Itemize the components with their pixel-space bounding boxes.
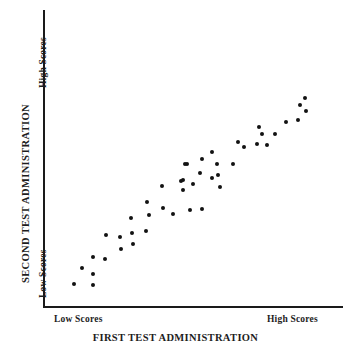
data-point — [200, 207, 204, 211]
data-point — [265, 143, 269, 147]
data-point — [284, 120, 288, 124]
data-point — [260, 132, 264, 136]
data-point — [181, 188, 185, 192]
data-point — [144, 229, 148, 233]
data-point — [303, 96, 307, 100]
y-axis-title: SECOND TEST ADMINISTRATION — [20, 104, 31, 283]
data-point — [216, 173, 220, 177]
data-point — [210, 150, 214, 154]
data-point — [171, 212, 175, 216]
data-point — [210, 176, 214, 180]
data-point — [160, 184, 164, 188]
data-point — [129, 216, 133, 220]
data-point — [273, 132, 277, 136]
data-point — [191, 182, 195, 186]
data-point — [145, 200, 149, 204]
data-point — [161, 206, 165, 210]
y-axis-high-label: High Scores — [38, 37, 48, 88]
scatterplot-figure: SECOND TEST ADMINISTRATION High Scores L… — [0, 0, 351, 350]
data-point — [91, 255, 95, 259]
data-point — [188, 208, 192, 212]
x-axis-high-label: High Scores — [267, 314, 318, 324]
data-point — [242, 145, 246, 149]
data-point — [72, 282, 76, 286]
data-point — [131, 242, 135, 246]
x-axis-title: FIRST TEST ADMINISTRATION — [0, 332, 351, 343]
data-point — [304, 109, 308, 113]
y-axis-low-label: Low Scores — [38, 249, 48, 298]
data-point — [257, 125, 261, 129]
data-point — [104, 233, 108, 237]
data-point — [218, 185, 222, 189]
data-point — [80, 266, 84, 270]
data-point — [119, 247, 123, 251]
data-point — [91, 272, 95, 276]
data-point — [215, 162, 219, 166]
plot-area — [0, 0, 351, 350]
x-axis-low-label: Low Scores — [54, 314, 103, 324]
data-point — [198, 171, 202, 175]
data-point — [255, 142, 259, 146]
data-point — [118, 235, 122, 239]
data-point — [130, 231, 134, 235]
data-point — [296, 118, 300, 122]
data-point — [91, 283, 95, 287]
data-point — [298, 103, 302, 107]
data-point — [236, 140, 240, 144]
data-point — [147, 213, 151, 217]
data-point — [200, 157, 204, 161]
data-point — [103, 257, 107, 261]
data-point — [231, 162, 235, 166]
